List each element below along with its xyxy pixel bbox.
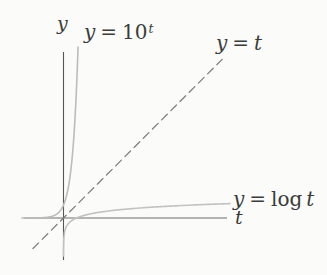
log-curve [64,204,230,256]
exp-label-lhs: y [84,20,95,44]
log-label-equals: = [249,187,266,211]
exp-curve [22,47,78,218]
log-label-fn: log [271,187,302,211]
identity-label-equals: = [232,31,249,55]
log-label-arg: t [306,187,314,211]
y-axis-label: y [57,14,68,33]
identity-label-rhs: t [254,31,262,55]
plot-svg [0,0,327,275]
log-curve-label: y=logt [233,189,314,209]
exp-curve-label: y=10t [84,22,154,42]
identity-line-label: y=t [216,33,262,53]
function-graph-figure: y y=10t y=t y=logt t [0,0,327,275]
exp-label-base: 10 [122,20,147,44]
identity-line [33,59,222,248]
exp-label-equals: = [100,20,117,44]
t-axis-label: t [235,208,243,227]
identity-label-lhs: y [216,31,227,55]
exp-label-exponent: t [149,21,154,36]
